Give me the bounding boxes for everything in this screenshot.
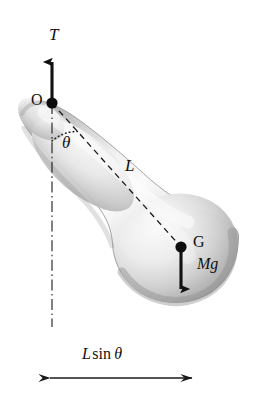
weight-label: Mg xyxy=(197,256,218,272)
diagram-canvas xyxy=(0,0,260,395)
dimension-symbol-theta: θ xyxy=(114,345,122,362)
theta-label: θ xyxy=(62,134,70,151)
dimension-function-sin: sin xyxy=(92,345,111,362)
pivot-label: O xyxy=(31,92,43,108)
horizontal-offset-label: L sin θ xyxy=(82,346,122,362)
center-of-gravity-marker xyxy=(175,241,186,252)
dimension-symbol-L: L xyxy=(82,345,91,362)
tension-label: T xyxy=(49,26,58,43)
physical-pendulum-diagram: T O θ L G Mg L sin θ xyxy=(0,0,260,395)
pivot-point-marker xyxy=(46,97,57,108)
center-of-gravity-label: G xyxy=(193,234,205,250)
pendulum-body xyxy=(10,89,249,315)
length-label: L xyxy=(125,157,134,174)
